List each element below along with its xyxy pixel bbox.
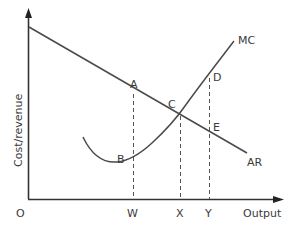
mc-label: MC [238,34,255,47]
point-a-label: A [130,78,138,91]
dashed-guides [134,78,210,199]
point-c-label: C [168,98,176,111]
x-tick-w: W [127,207,138,220]
ar-curve [29,27,247,153]
x-tick-x: X [176,207,184,220]
x-axis-arrow-icon [273,196,284,203]
point-e-label: E [213,121,220,134]
point-d-label: D [213,71,221,84]
x-tick-y: Y [204,207,212,220]
cost-revenue-diagram: MC AR A B C D E O W X Y Output Cost/reve… [0,0,294,231]
x-axis-label: Output [243,207,282,220]
y-axis-label: Cost/revenue [12,94,25,167]
y-axis-arrow-icon [25,8,32,18]
origin-label: O [16,207,25,220]
ar-label: AR [247,156,263,169]
point-b-label: B [117,153,125,166]
